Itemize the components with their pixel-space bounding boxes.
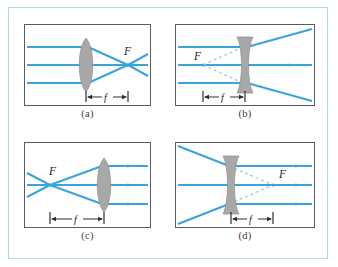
ray-direction-arrow-c-mid bbox=[128, 183, 132, 187]
ray-after-focus-down bbox=[128, 65, 148, 76]
panel-d-caption: (d) bbox=[175, 230, 315, 241]
panel-a-diagram: F f bbox=[24, 24, 151, 106]
panel-b-diverging-parallel-rays: F f bbox=[175, 24, 315, 106]
dim-arrow-left-a bbox=[87, 95, 92, 99]
virtual-ray-bottom bbox=[203, 65, 243, 83]
ray-incoming-bottom bbox=[178, 204, 229, 224]
focal-point-label-d: F bbox=[278, 168, 287, 180]
ray-direction-arrow-c-top bbox=[128, 164, 132, 168]
ray-incoming-top bbox=[178, 146, 229, 166]
panel-b-diagram: F f bbox=[175, 24, 315, 106]
ray-outgoing-top bbox=[247, 29, 312, 47]
dim-arrow-left-b bbox=[204, 95, 209, 99]
panel-b-caption: (b) bbox=[175, 108, 315, 119]
panel-c-caption: (c) bbox=[24, 230, 151, 241]
ray-focus-to-lens-top bbox=[50, 166, 102, 185]
focal-point-dot-d bbox=[271, 183, 274, 186]
ray-direction-arrow-c-bottom bbox=[128, 202, 132, 206]
focal-point-dot-a bbox=[126, 63, 129, 66]
ray-refracted-bottom bbox=[88, 65, 128, 83]
focal-point-dot-b bbox=[201, 63, 204, 66]
panel-grid: F f (a) bbox=[0, 0, 338, 267]
focal-point-label-c: F bbox=[48, 165, 57, 177]
ray-direction-arrow-d-top bbox=[296, 164, 300, 168]
ray-direction-arrow-b bbox=[290, 63, 294, 67]
panel-d-diagram: F f bbox=[175, 142, 315, 228]
dim-arrow-left-c bbox=[51, 217, 56, 221]
ray-direction-arrow-a bbox=[134, 63, 138, 67]
focal-point-dot-c bbox=[48, 183, 51, 186]
panel-a-caption: (a) bbox=[24, 108, 151, 119]
focal-point-label-b: F bbox=[193, 50, 202, 62]
dim-arrow-right-d bbox=[267, 217, 272, 221]
dim-arrow-right-b bbox=[239, 95, 244, 99]
panel-c-converging-focus-to-parallel: F f bbox=[24, 142, 151, 228]
dim-arrow-right-c bbox=[98, 217, 103, 221]
ray-direction-arrow-d-bottom bbox=[296, 202, 300, 206]
ray-direction-arrow-d-mid bbox=[296, 183, 300, 187]
ray-incoming-lower bbox=[27, 185, 50, 197]
lens-focal-point-figure: F f (a) bbox=[0, 0, 338, 267]
ray-refracted-top bbox=[88, 47, 128, 65]
panel-c-diagram: F f bbox=[24, 142, 151, 228]
ray-incoming-upper bbox=[27, 173, 50, 185]
converging-lens-a bbox=[79, 38, 93, 92]
panel-a-converging-parallel-rays: F f bbox=[24, 24, 151, 106]
virtual-ray-top bbox=[203, 47, 243, 65]
dim-arrow-left-d bbox=[232, 217, 237, 221]
ray-focus-to-lens-bottom bbox=[50, 185, 102, 204]
ray-outgoing-bottom bbox=[247, 83, 312, 101]
converging-lens-c bbox=[97, 158, 111, 212]
panel-d-diverging-converging-rays: F f bbox=[175, 142, 315, 228]
dim-arrow-right-a bbox=[122, 95, 127, 99]
focal-point-label-a: F bbox=[123, 45, 132, 57]
